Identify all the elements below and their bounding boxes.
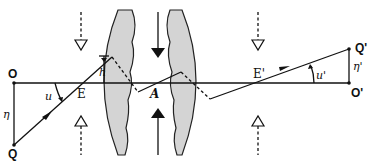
exit-ray	[210, 49, 349, 99]
hollow-arrow-up-icon	[75, 116, 87, 126]
label-eta-prime: η'	[353, 60, 363, 73]
label-u-prime: u'	[316, 69, 326, 82]
label-q-prime: Q'	[355, 41, 367, 55]
solid-arrow-down-icon	[151, 48, 165, 58]
label-e-prime: E'	[253, 67, 265, 81]
label-h: h	[99, 66, 106, 79]
label-o: O	[8, 67, 17, 81]
label-e: E	[77, 87, 86, 101]
incident-ray	[14, 57, 112, 145]
label-a: A	[149, 87, 159, 101]
point-o	[12, 81, 16, 85]
hollow-arrow-down-icon	[252, 40, 264, 50]
hollow-arrow-down-icon	[75, 40, 87, 50]
label-o-prime: O'	[351, 86, 363, 100]
label-q: Q	[8, 147, 17, 161]
solid-arrow-up-icon	[151, 108, 165, 118]
optical-diagram: O Q η u E h A E' u' η' Q' O'	[0, 0, 376, 162]
angle-arc-u-prime	[311, 66, 314, 83]
label-eta: η	[3, 108, 10, 121]
point-o-prime	[347, 81, 351, 85]
label-u: u	[45, 90, 52, 103]
hollow-arrow-up-icon	[252, 116, 264, 126]
